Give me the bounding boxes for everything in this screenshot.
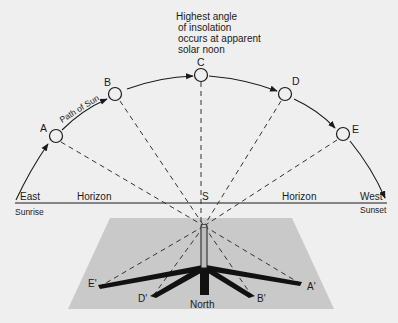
sun-d [279,88,292,101]
label-b-prime: B' [257,293,266,304]
note-line-3: occurs at apparent [178,33,261,44]
north-label: North [190,299,214,310]
label-e: E [352,123,359,135]
label-c: C [197,56,205,68]
sun-path-diagram: Highest angle of insolation occurs at ap… [0,0,398,323]
label-d: D [292,75,300,87]
label-b: B [104,76,111,88]
gnomon-top [201,225,207,228]
south-label: S [202,191,209,202]
note-line-2: of insolation [178,22,231,33]
sun-rays [61,82,337,226]
label-a: A [40,122,47,134]
west-label: West [360,191,383,202]
sunrise-label: Sunrise [15,207,44,217]
gnomon-pole [201,226,207,268]
path-of-sun-label: Path of Sun [58,93,101,125]
label-d-prime: D' [138,293,147,304]
sun-c [195,69,208,82]
note-line-4: solar noon [178,44,225,55]
horizon-label-left: Horizon [77,191,111,202]
label-a-prime: A' [307,281,316,292]
note-line-1: Highest angle [176,11,238,22]
sun-e [337,128,350,141]
sun-a [50,130,63,143]
label-e-prime: E' [88,278,97,289]
horizon-label-right: Horizon [282,191,316,202]
sunset-label: Sunset [360,205,387,215]
east-label: East [20,191,40,202]
sun-b [109,88,122,101]
